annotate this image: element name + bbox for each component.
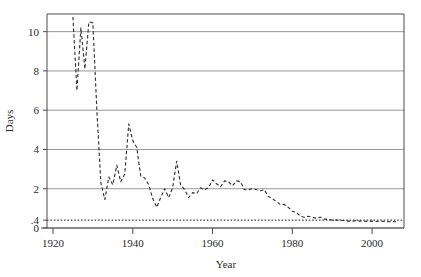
line-chart: 0.4246810 19201940196019802000 Days Year: [0, 0, 421, 277]
y-tick-label: 8: [34, 65, 40, 77]
y-axis-title: Days: [3, 110, 15, 133]
x-tick-label: 1920: [42, 237, 65, 249]
x-tick-label: 1960: [202, 237, 225, 249]
x-axis-title: Year: [216, 258, 237, 270]
x-tick-label: 2000: [361, 237, 384, 249]
y-tick-label: 10: [28, 26, 40, 38]
data-series-days: [73, 17, 396, 222]
x-tick-label: 1980: [281, 237, 304, 249]
gridlines: [47, 32, 404, 228]
y-axis-ticks: 0.4246810: [28, 26, 47, 234]
y-tick-label: 6: [34, 104, 40, 116]
plot-frame: [41, 14, 404, 228]
y-tick-label: 2: [34, 183, 40, 195]
x-tick-label: 1940: [122, 237, 145, 249]
y-tick-label: 4: [34, 143, 40, 155]
chart-figure: 0.4246810 19201940196019802000 Days Year: [0, 0, 421, 277]
x-axis-ticks: 19201940196019802000: [42, 228, 384, 249]
y-tick-label: .4: [31, 214, 40, 226]
